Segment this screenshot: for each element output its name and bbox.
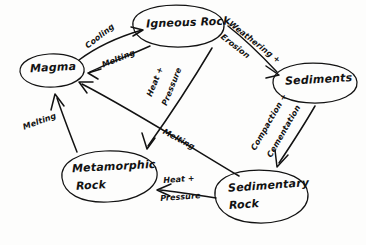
node-metamorphic-outline xyxy=(62,151,157,202)
edge-igneous-to-sediments xyxy=(228,26,279,78)
node-igneous-outline xyxy=(133,5,224,47)
edge-igneous-to-magma xyxy=(88,46,150,79)
edge-sedimentary-to-metamorphic xyxy=(157,184,216,198)
edge-sediments-to-sedimentary xyxy=(275,106,315,167)
edge-metamorphic-to-magma xyxy=(51,94,77,152)
edge-sedimentary-to-magma xyxy=(79,82,239,176)
edge-igneous-to-metamorphic xyxy=(142,48,212,149)
diagram-strokes: .ink { fill:none; stroke:#121212; stroke… xyxy=(0,0,366,245)
edge-magma-to-igneous xyxy=(79,27,143,60)
node-magma-outline xyxy=(20,54,84,87)
rock-cycle-diagram: .ink { fill:none; stroke:#121212; stroke… xyxy=(0,0,366,245)
node-sediments-outline xyxy=(273,63,357,103)
node-sedimentary-outline xyxy=(215,170,308,223)
